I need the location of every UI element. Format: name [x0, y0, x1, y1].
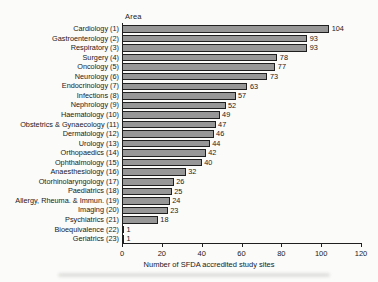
- bar: [122, 130, 214, 138]
- bar: [122, 140, 210, 148]
- scanned-bar-chart-figure: Area Cardiology (1)104Gastroenterology (…: [0, 0, 378, 282]
- category-label: Urology (13): [79, 139, 119, 148]
- bar: [122, 25, 329, 33]
- bar-value-label: 44: [212, 139, 220, 148]
- bar: [122, 83, 247, 91]
- bar-value-label: 78: [280, 53, 288, 62]
- bar: [122, 54, 277, 62]
- x-axis-tick: [281, 244, 282, 247]
- category-label: Infections (8): [77, 91, 119, 100]
- category-label: Haematology (10): [61, 110, 119, 119]
- category-label: Orthopaedics (14): [61, 148, 119, 157]
- bar-value-label: 25: [174, 187, 182, 196]
- category-label: Obstetrics & Gynaecology (11): [20, 120, 119, 129]
- bar-value-label: 93: [310, 43, 318, 52]
- bar: [122, 178, 174, 186]
- category-label: Bioequivalence (22): [55, 225, 120, 234]
- category-label: Gastroenterology (2): [52, 34, 119, 43]
- x-axis-tick-label: 100: [315, 249, 328, 258]
- bar-value-label: 1: [126, 225, 130, 234]
- category-label: Endocrinology (7): [62, 81, 119, 90]
- x-axis-tick: [122, 244, 123, 247]
- bar-value-label: 1: [126, 234, 130, 243]
- bar-value-label: 47: [218, 120, 226, 129]
- category-label: Nephrology (9): [71, 100, 119, 109]
- bar: [122, 216, 158, 224]
- category-label: Imaging (20): [78, 205, 119, 214]
- bar: [122, 207, 168, 215]
- y-axis-title: Area: [125, 12, 142, 21]
- x-axis-tick-label: 0: [120, 249, 124, 258]
- bar: [122, 149, 206, 157]
- cutoff-caption-artifact: [58, 273, 330, 277]
- category-label: Cardiology (1): [73, 24, 119, 33]
- category-label: Surgery (4): [83, 53, 120, 62]
- y-axis-line: [122, 23, 123, 243]
- bar-value-label: 18: [160, 215, 168, 224]
- category-label: Oncology (5): [77, 62, 119, 71]
- x-axis-tick-label: 40: [197, 249, 205, 258]
- bar-value-label: 52: [228, 101, 236, 110]
- bar: [122, 63, 275, 71]
- x-axis-title: Number of SFDA accredited study sites: [144, 260, 275, 269]
- bar-value-label: 40: [204, 158, 212, 167]
- x-axis-tick-label: 60: [237, 249, 245, 258]
- x-axis-tick-label: 80: [277, 249, 285, 258]
- bar-value-label: 73: [270, 72, 278, 81]
- category-label: Dermatology (12): [63, 129, 119, 138]
- bar: [122, 102, 226, 110]
- bar-value-label: 23: [170, 206, 178, 215]
- bar: [122, 92, 236, 100]
- bar: [122, 168, 186, 176]
- x-axis-tick: [321, 244, 322, 247]
- bar-value-label: 24: [172, 196, 180, 205]
- bar: [122, 197, 170, 205]
- bar-value-label: 49: [222, 110, 230, 119]
- bar: [122, 121, 216, 129]
- x-axis-tick: [361, 244, 362, 247]
- category-label: Otorhinolaryngology (17): [39, 177, 119, 186]
- x-axis-tick-label: 120: [355, 249, 368, 258]
- category-label: Geriatrics (23): [73, 234, 119, 243]
- category-label: Neurology (6): [75, 72, 119, 81]
- bar: [122, 73, 267, 81]
- category-label: Anaesthesiology (16): [50, 167, 119, 176]
- category-label: Respiratory (3): [71, 43, 119, 52]
- bar: [122, 111, 220, 119]
- bar-value-label: 57: [238, 91, 246, 100]
- bar: [122, 44, 307, 52]
- bar-value-label: 104: [332, 24, 344, 33]
- category-label: Allergy, Rheuma. & Immun. (19): [15, 196, 119, 205]
- bar: [122, 35, 307, 43]
- bar: [122, 188, 172, 196]
- bar-value-label: 46: [216, 129, 224, 138]
- bar-value-label: 93: [310, 34, 318, 43]
- bar-value-label: 42: [208, 148, 216, 157]
- bar: [122, 159, 202, 167]
- category-label: Psychiatrics (21): [65, 215, 119, 224]
- bar-value-label: 32: [188, 167, 196, 176]
- category-label: Paediatrics (18): [68, 186, 119, 195]
- x-axis-tick: [242, 244, 243, 247]
- bar-value-label: 26: [176, 177, 184, 186]
- category-label: Ophthalmology (15): [55, 158, 119, 167]
- bar-value-label: 63: [250, 82, 258, 91]
- x-axis-tick-label: 20: [158, 249, 166, 258]
- x-axis-tick: [202, 244, 203, 247]
- x-axis-tick: [162, 244, 163, 247]
- bar-value-label: 77: [278, 62, 286, 71]
